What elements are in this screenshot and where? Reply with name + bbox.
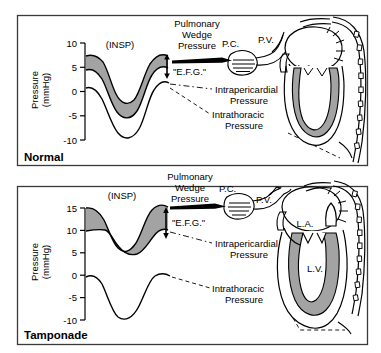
tick-label-neg10-t: -10	[63, 315, 77, 326]
panel-tamponade-axis-title: Pressure (mmHg)	[29, 243, 51, 281]
tick-label-neg5-t: -5	[69, 292, 77, 303]
left-ventricle-label-tamponade: L.V.	[307, 263, 323, 274]
axis-title-line1-t: Pressure	[29, 243, 40, 281]
axis-title-line2: (mmHg)	[40, 73, 51, 107]
ipp-line2-t: Pressure	[230, 249, 268, 260]
itp-line1: Intrathoracic	[212, 109, 265, 120]
itp-line1-t: Intrathoracic	[212, 283, 265, 294]
inspiration-label-normal: (INSP)	[106, 39, 135, 50]
axis-title-line1: Pressure	[29, 71, 40, 109]
panel-label-normal: Normal	[24, 151, 64, 163]
tick-label-neg10: -10	[63, 135, 77, 146]
tick-label-neg5: -5	[69, 110, 77, 121]
ipp-line1: Intrapericardial	[215, 84, 278, 95]
itp-line2-t: Pressure	[225, 294, 263, 305]
pulmonary-capillary-label-tamponade: P.C.	[219, 183, 236, 194]
tick-label-15-t: 15	[66, 203, 77, 214]
inspiration-label-tamponade: (INSP)	[108, 190, 137, 201]
tick-label-0: 0	[72, 86, 77, 97]
pulmonary-vein-label-normal: P.V.	[258, 34, 274, 45]
tick-label-10-t: 10	[66, 225, 77, 236]
panel-label-tamponade: Tamponade	[24, 329, 88, 341]
tick-label-5: 5	[72, 62, 77, 73]
pwp-line2: Wedge	[182, 29, 212, 40]
pwp-line3: Pressure	[178, 40, 216, 51]
itp-line2: Pressure	[225, 120, 263, 131]
pulmonary-vein-label-tamponade: P.V.	[256, 194, 272, 205]
pwp-line2-t: Wedge	[175, 182, 205, 193]
pwp-line3-t: Pressure	[171, 193, 209, 204]
efg-label-normal: "E.F.G."	[173, 66, 206, 77]
pericardial-tamponade-figure: Pressure (mmHg) 10 5 0 -5 -10 (INSP)	[0, 0, 381, 353]
tick-label-0-t: 0	[72, 270, 77, 281]
tick-label-10: 10	[66, 38, 77, 49]
efg-label-tamponade: "E.F.G."	[172, 217, 205, 228]
ipp-line1-t: Intrapericardial	[215, 238, 278, 249]
left-atrium-label-tamponade: L.A.	[297, 218, 314, 229]
pulmonary-capillary-label-normal: P.C.	[222, 38, 239, 49]
pwp-line1: Pulmonary	[174, 18, 220, 29]
ipp-line2: Pressure	[230, 95, 268, 106]
panel-normal-axis-title: Pressure (mmHg)	[29, 71, 51, 109]
panel-normal: Pressure (mmHg) 10 5 0 -5 -10 (INSP)	[18, 16, 368, 166]
tick-label-5-t: 5	[72, 247, 77, 258]
pwp-line1-t: Pulmonary	[167, 171, 213, 182]
axis-title-line2-t: (mmHg)	[40, 245, 51, 279]
